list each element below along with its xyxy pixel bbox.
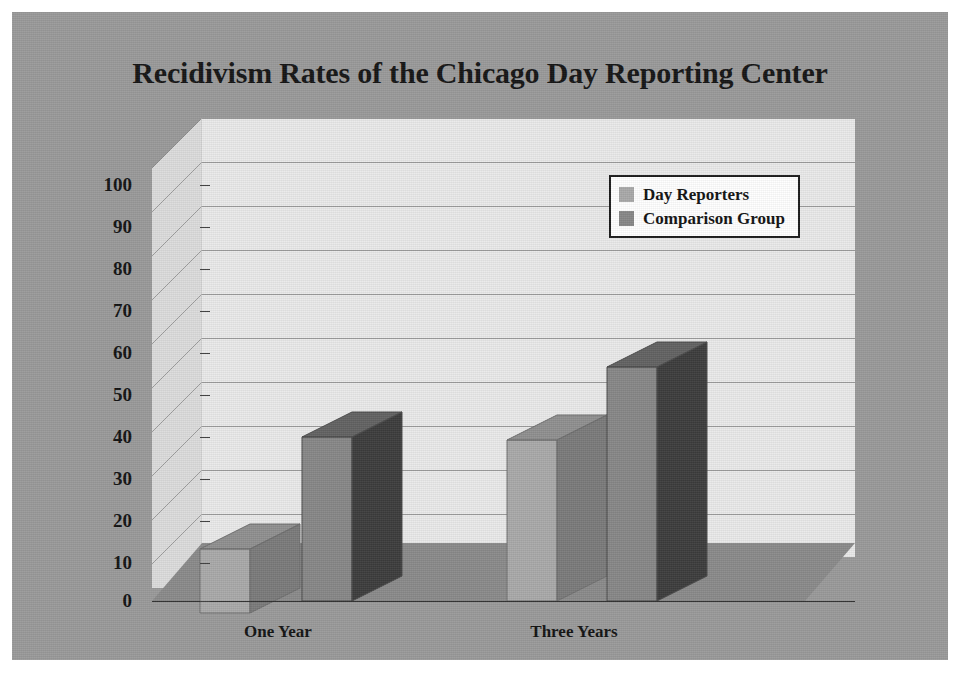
bar-comparison-group-three-years [557,337,717,622]
y-tick-label: 40 [113,426,132,448]
legend-label: Comparison Group [643,210,785,227]
y-tick-label: 70 [113,300,132,322]
legend-label: Day Reporters [643,186,749,203]
y-tick-mark [200,311,210,312]
chart-page: Recidivism Rates of the Chicago Day Repo… [0,0,966,676]
y-tick-label: 30 [113,468,132,490]
legend-item-day-reporters: Day Reporters [619,182,785,206]
y-tick-mark [200,395,210,396]
y-tick-label: 0 [123,590,133,612]
y-tick-mark [200,521,210,522]
y-tick-mark [200,269,210,270]
y-tick-label: 80 [113,258,132,280]
y-tick-mark [200,227,210,228]
y-axis: 100 90 80 70 60 50 40 30 20 10 0 [68,12,146,660]
y-tick-label: 10 [113,552,132,574]
gridline [202,294,855,295]
gridline [202,382,855,383]
y-tick-label: 20 [113,510,132,532]
gridline [202,118,855,119]
y-tick-label: 50 [113,384,132,406]
y-tick-mark [200,479,210,480]
y-tick-label: 90 [113,216,132,238]
legend-item-comparison-group: Comparison Group [619,206,785,230]
gridline [202,338,855,339]
x-axis-line [152,601,855,602]
y-tick-mark [200,563,210,564]
gridline [202,250,855,251]
legend-swatch-icon [619,187,634,202]
y-tick-label: 60 [113,342,132,364]
chart-plate: Recidivism Rates of the Chicago Day Repo… [12,12,948,660]
x-tick-label-three-years: Three Years [530,622,617,642]
y-tick-mark [200,601,210,602]
y-tick-label: 100 [104,174,133,196]
chart-legend: Day Reporters Comparison Group [609,175,800,238]
y-tick-mark [200,437,210,438]
legend-swatch-icon [619,211,634,226]
gridline [202,162,855,163]
y-tick-mark [200,353,210,354]
bar-comparison-group-one-year [252,407,412,617]
x-tick-label-one-year: One Year [244,622,312,642]
plot-area: 100 90 80 70 60 50 40 30 20 10 0 [12,12,948,660]
y-tick-mark [200,185,210,186]
